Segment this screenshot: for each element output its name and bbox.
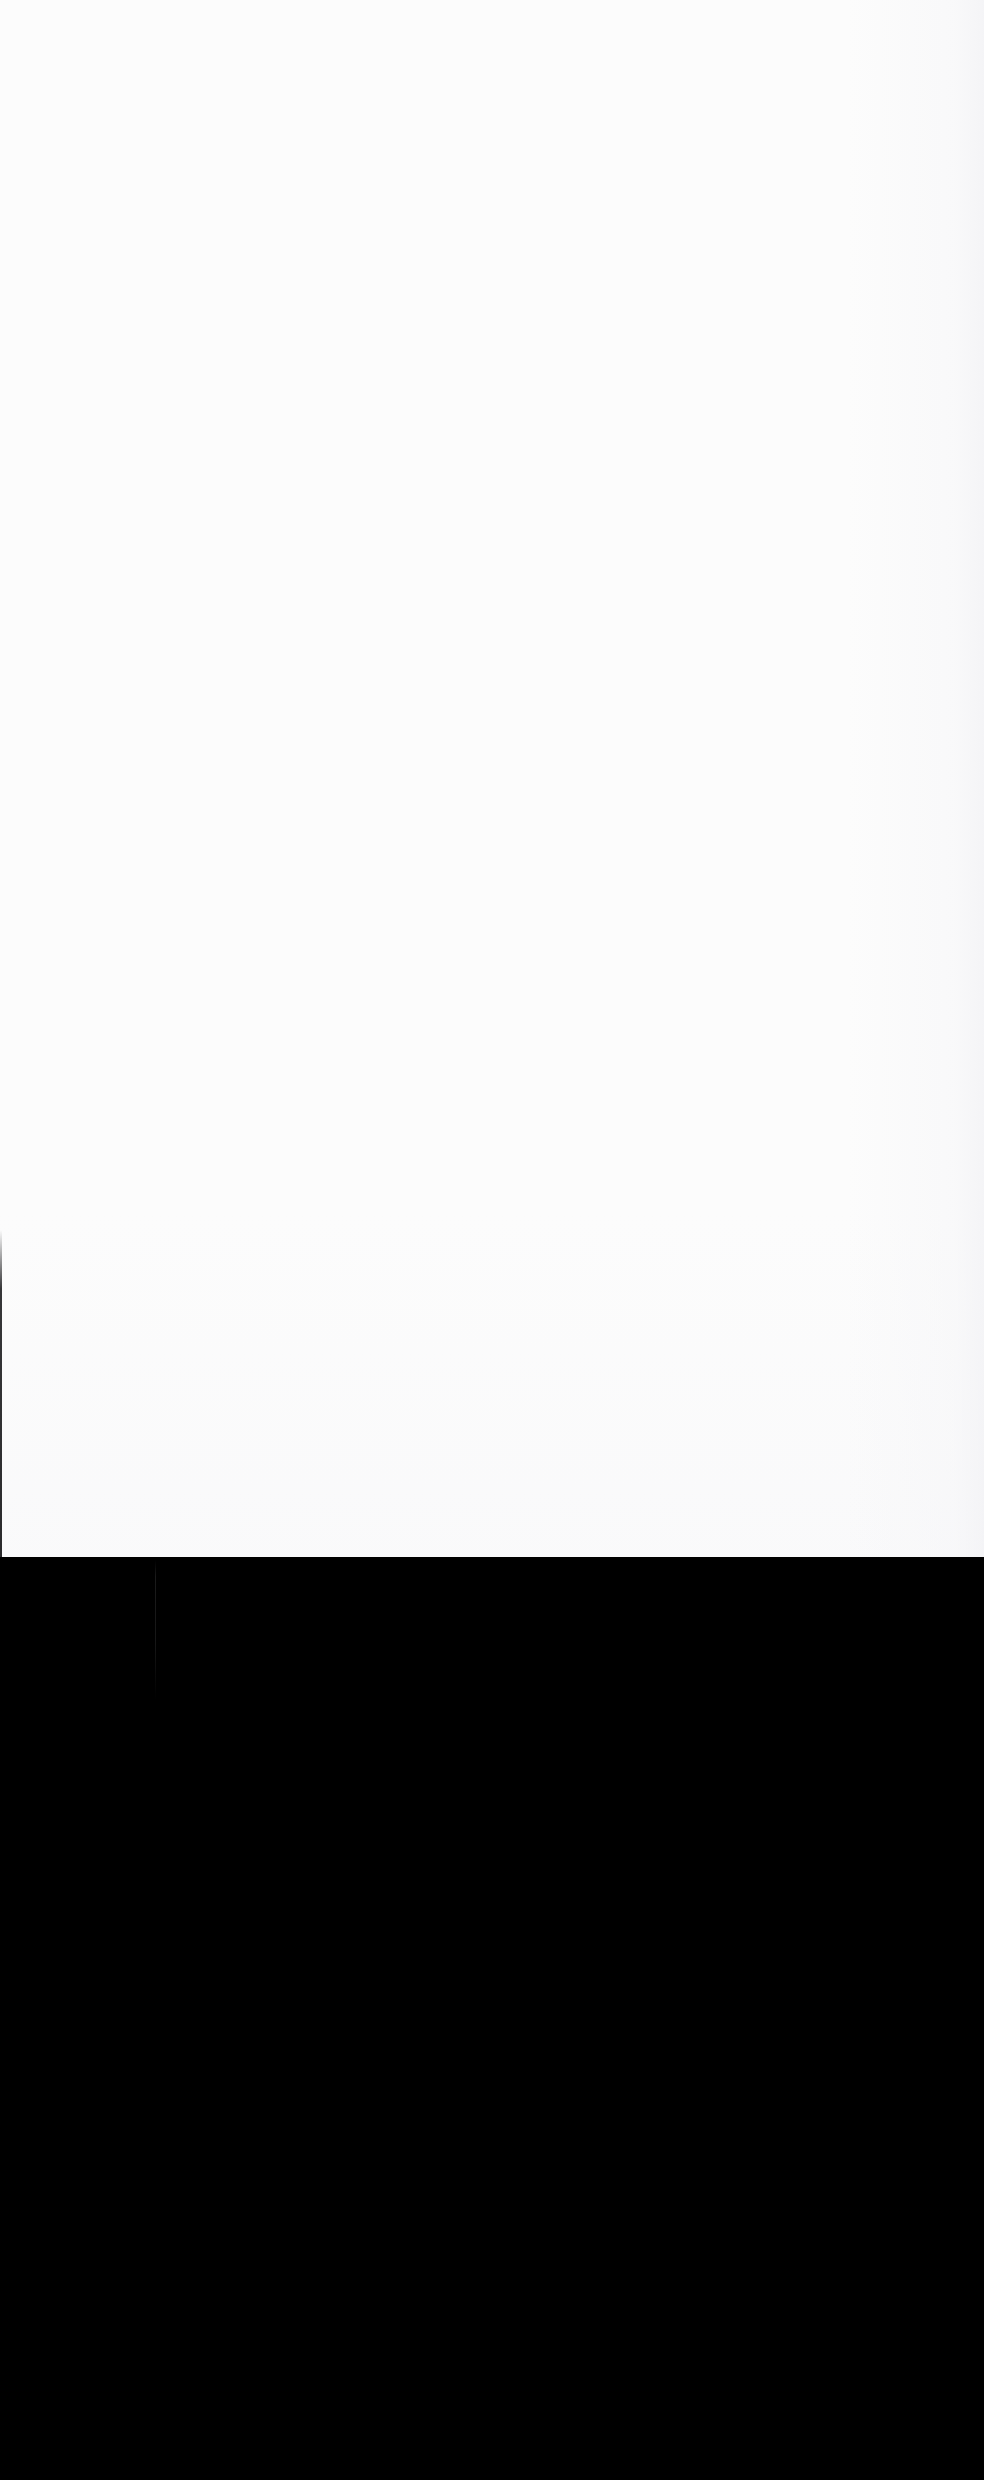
screenshot-canvas <box>0 0 984 2480</box>
upper-panel-tone-gradient <box>0 0 984 1557</box>
left-edge-hairline-artifact <box>0 1230 2 1557</box>
upper-blank-panel <box>0 0 984 1557</box>
black-panel-seam-artifact <box>155 1560 156 1700</box>
lower-blank-panel <box>0 1557 984 2480</box>
